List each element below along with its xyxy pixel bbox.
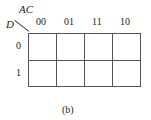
column-variables-label: AC — [19, 3, 33, 15]
column-label-00: 00 — [36, 16, 46, 27]
figure-caption: (b) — [62, 104, 74, 115]
kmap-cell — [85, 61, 113, 88]
kmap-cell — [85, 34, 113, 61]
kmap-cell — [29, 34, 57, 61]
row-variable-label: D — [6, 18, 14, 30]
row-label-0: 0 — [16, 40, 21, 51]
column-label-11: 11 — [92, 16, 102, 27]
column-label-01: 01 — [64, 16, 74, 27]
kmap-grid — [28, 33, 141, 87]
kmap-cell — [113, 61, 141, 88]
kmap-cell — [57, 61, 85, 88]
row-label-1: 1 — [16, 67, 21, 78]
kmap-cell — [113, 34, 141, 61]
kmap-cell — [57, 34, 85, 61]
kmap-cell — [29, 61, 57, 88]
corner-diagonal — [14, 20, 29, 32]
column-label-10: 10 — [120, 16, 130, 27]
